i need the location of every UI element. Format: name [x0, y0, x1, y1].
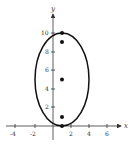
vertex-point-bottom — [60, 124, 64, 128]
x-tick-label: -4 — [10, 130, 16, 137]
ellipse-diagram: -4 -2 2 4 6 2 4 6 8 10 x y — [0, 0, 134, 148]
x-tick-label: 6 — [105, 130, 109, 137]
y-tick-label: 8 — [45, 48, 49, 55]
y-tick-label: 2 — [45, 103, 49, 110]
y-axis-label: y — [50, 5, 56, 13]
x-axis-label: x — [124, 122, 128, 130]
focus-point-bottom — [60, 115, 64, 119]
y-tick-label: 6 — [45, 66, 49, 73]
y-tick-label: 10 — [41, 29, 49, 36]
x-tick-label: 2 — [69, 130, 73, 137]
x-tick-label: 4 — [87, 130, 91, 137]
x-tick-label: -2 — [30, 130, 36, 137]
center-point — [60, 78, 64, 82]
vertex-point-top — [60, 31, 64, 35]
y-tick-label: 4 — [45, 85, 49, 92]
focus-point-top — [60, 40, 64, 44]
